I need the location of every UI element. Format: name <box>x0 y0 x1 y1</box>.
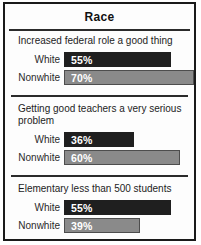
chart-title: Race <box>5 4 194 24</box>
bar-row: White 55% <box>5 200 194 215</box>
bar-value-label: 60% <box>65 152 93 164</box>
category-label: White <box>5 54 64 65</box>
group-subtitle: Getting good teachers a very serious pro… <box>5 99 194 129</box>
bar-group-elementary-500: Elementary less than 500 students White … <box>5 179 194 238</box>
category-label: Nonwhite <box>5 72 64 83</box>
bar-nonwhite: 70% <box>64 70 194 85</box>
bar-row: Nonwhite 39% <box>5 218 194 233</box>
bar-value-label: 39% <box>65 220 93 232</box>
bar-white: 55% <box>64 200 171 215</box>
bar-nonwhite: 60% <box>64 150 180 165</box>
bar-value-label: 36% <box>65 134 93 146</box>
category-label: Nonwhite <box>5 220 64 231</box>
category-label: White <box>5 134 64 145</box>
bar-group-good-teachers: Getting good teachers a very serious pro… <box>5 99 194 170</box>
section-divider <box>11 95 188 97</box>
bar-value-label: 55% <box>65 54 93 66</box>
group-subtitle: Increased federal role a good thing <box>5 31 194 49</box>
bar-white: 55% <box>64 52 171 67</box>
bar-nonwhite: 39% <box>64 218 140 233</box>
group-subtitle: Elementary less than 500 students <box>5 179 194 197</box>
bar-value-label: 55% <box>65 202 93 214</box>
bar-group-federal-role: Increased federal role a good thing Whit… <box>5 31 194 90</box>
bar-row: Nonwhite 60% <box>5 150 194 165</box>
category-label: Nonwhite <box>5 152 64 163</box>
bar-value-label: 70% <box>65 72 93 84</box>
bar-white: 36% <box>64 132 134 147</box>
bar-row: Nonwhite 70% <box>5 70 194 85</box>
bar-row: White 36% <box>5 132 194 147</box>
category-label: White <box>5 202 64 213</box>
chart-frame: Race Increased federal role a good thing… <box>3 2 196 241</box>
section-divider <box>11 175 188 177</box>
bar-row: White 55% <box>5 52 194 67</box>
